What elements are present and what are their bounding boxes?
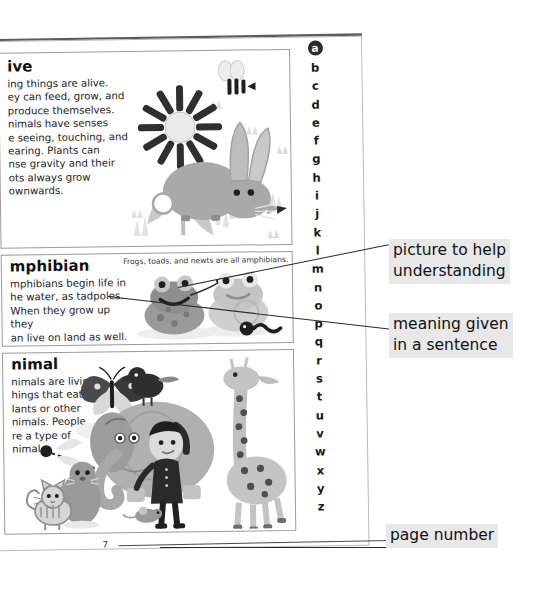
- alphabet-index-letter-y[interactable]: y: [313, 479, 329, 498]
- alphabet-index-letter-p[interactable]: p: [310, 315, 326, 334]
- entry-headword-alive: ive: [7, 57, 33, 75]
- alphabet-index-letter-e[interactable]: e: [308, 113, 324, 132]
- alphabet-index-letter-r[interactable]: r: [311, 351, 327, 370]
- leader-line-page-number: [160, 547, 388, 548]
- alphabet-index-letter-x[interactable]: x: [312, 461, 328, 480]
- alphabet-index-letter-s[interactable]: s: [311, 369, 327, 388]
- alphabet-index-letter-w[interactable]: w: [312, 443, 328, 462]
- annotation-picture-to-help-understanding: picture to help understanding: [389, 239, 510, 284]
- alphabet-index-letter-f[interactable]: f: [308, 132, 324, 151]
- alphabet-index-letter-n[interactable]: n: [310, 278, 326, 297]
- alphabet-index-letter-a[interactable]: a: [307, 40, 322, 55]
- annotation-meaning-given-in-a-sentence: meaning given in a sentence: [389, 313, 513, 358]
- alphabet-index-letter-o[interactable]: o: [310, 296, 326, 315]
- alphabet-index-letter-t[interactable]: t: [311, 388, 327, 407]
- entry-headword-amphibian: mphibian: [10, 257, 90, 276]
- alphabet-index-letter-i[interactable]: i: [309, 187, 325, 206]
- dictionary-entry-animal[interactable]: nimal nimals are living hings that eat l…: [2, 349, 296, 535]
- alphabet-index-letter-q[interactable]: q: [311, 333, 327, 352]
- illustration-animal: [23, 356, 295, 532]
- alphabet-index-letter-c[interactable]: c: [307, 77, 323, 96]
- dictionary-entry-alive[interactable]: ive ing things are alive. ey can feed, g…: [0, 49, 293, 249]
- illustration-amphibian: [128, 266, 289, 344]
- alphabet-index-letter-d[interactable]: d: [308, 95, 324, 114]
- alphabet-index[interactable]: a b c d e f g h i j k l m n o p q r s t …: [300, 40, 336, 532]
- entry-definition-alive: ing things are alive. ey can feed, grow,…: [7, 76, 129, 198]
- alphabet-index-letter-u[interactable]: u: [312, 406, 328, 425]
- alphabet-index-letter-k[interactable]: k: [309, 223, 325, 242]
- illustration-alive: [117, 56, 292, 248]
- alphabet-index-letter-j[interactable]: j: [309, 205, 325, 224]
- alphabet-index-letter-m[interactable]: m: [310, 260, 326, 279]
- alphabet-index-letter-v[interactable]: v: [312, 424, 328, 443]
- entry-definition-amphibian: mphibians begin life in he water, as tad…: [10, 276, 131, 345]
- alphabet-index-letter-h[interactable]: h: [309, 168, 325, 187]
- alphabet-index-letter-g[interactable]: g: [308, 150, 324, 169]
- annotation-page-number: page number: [386, 524, 498, 548]
- alphabet-index-letter-b[interactable]: b: [307, 58, 323, 77]
- dictionary-page-content: ive ing things are alive. ey can feed, g…: [54, 48, 356, 534]
- page-number: 7: [102, 539, 108, 549]
- dictionary-entry-amphibian[interactable]: mphibian mphibians begin life in he wate…: [1, 251, 294, 347]
- alphabet-index-letter-z[interactable]: z: [313, 498, 329, 517]
